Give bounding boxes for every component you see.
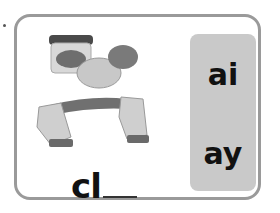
choice-ay[interactable]: ay (190, 139, 256, 169)
answer-blank[interactable] (103, 196, 137, 198)
word-prefix: cl (71, 166, 101, 206)
bullet-dot (3, 24, 6, 27)
phonics-card: cl ai ay (14, 14, 261, 200)
choice-ai[interactable]: ai (190, 60, 256, 90)
hands-stretching-clay (37, 97, 149, 147)
choices-panel: ai ay (190, 34, 256, 191)
word-prompt: cl (71, 169, 137, 203)
clay-illustration (31, 27, 161, 152)
